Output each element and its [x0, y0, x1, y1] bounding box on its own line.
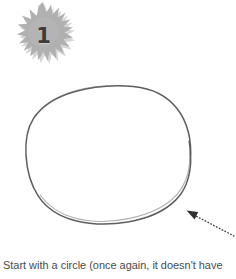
callout-arrow-dotted-line — [194, 215, 234, 236]
hand-drawn-circle-accent — [35, 86, 112, 117]
caption-text: Start with a circle (once again, it does… — [3, 258, 223, 272]
callout-arrow-head — [187, 211, 199, 220]
callout-arrow — [187, 211, 234, 236]
hand-drawn-circle-path — [26, 86, 191, 224]
step-badge-number: 1 — [10, 0, 76, 74]
hand-drawn-circle-overstroke — [40, 150, 190, 221]
tutorial-step-illustration: 1 Start with a circle (once again, it do… — [0, 0, 236, 279]
step-badge: 1 — [10, 0, 76, 74]
